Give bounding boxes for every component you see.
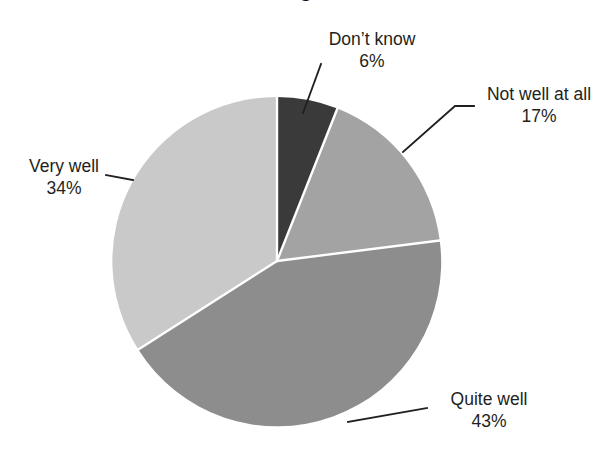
pie-label-very-well-value: 34%	[2, 177, 126, 199]
pie-label-very-well: Very well 34%	[2, 155, 126, 200]
pie-label-quite-well-name: Quite well	[451, 389, 528, 409]
pie-label-dont-know-value: 6%	[292, 50, 452, 72]
leader-line-not-well	[403, 106, 474, 152]
pie-label-not-well-at-all: Not well at all 17%	[466, 83, 612, 128]
pie-label-quite-well-value: 43%	[424, 410, 554, 432]
pie-label-quite-well: Quite well 43%	[424, 388, 554, 433]
pie-label-not-well-at-all-name: Not well at all	[487, 84, 591, 104]
pie-label-dont-know-name: Don’t know	[329, 29, 416, 49]
pie-chart-figure: g Don’t know 6%	[0, 0, 612, 451]
pie-label-not-well-at-all-value: 17%	[466, 105, 612, 127]
pie-label-very-well-name: Very well	[29, 156, 99, 176]
leader-line-quite-well	[348, 408, 427, 422]
pie-label-dont-know: Don’t know 6%	[292, 28, 452, 73]
